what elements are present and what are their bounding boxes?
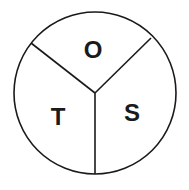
divider-upper-right	[95, 38, 151, 93]
sector-label-bottom-left: T	[51, 103, 66, 130]
sector-label-bottom-right: S	[124, 99, 140, 126]
sector-label-top: O	[84, 36, 103, 63]
three-sector-circle-diagram: O T S	[0, 0, 189, 190]
